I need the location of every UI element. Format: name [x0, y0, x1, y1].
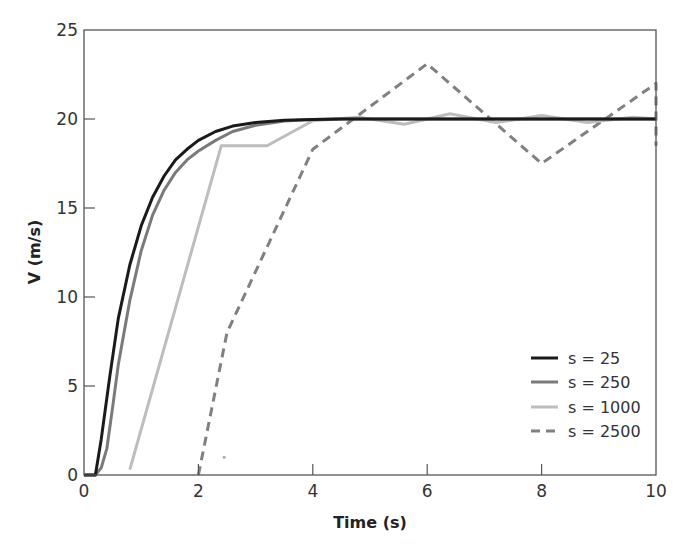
y-tick-label: 15	[56, 198, 78, 218]
y-axis-ticks: 0510152025	[56, 20, 95, 485]
x-tick-label: 0	[79, 481, 90, 501]
legend: s = 25 s = 250 s = 1000 s = 2500	[531, 349, 641, 441]
legend-label-s25: s = 25	[568, 349, 620, 368]
legend-label-s250: s = 250	[568, 373, 630, 392]
stray-mark	[223, 456, 226, 459]
x-axis-title: Time (s)	[333, 513, 407, 532]
legend-label-s2500: s = 2500	[568, 422, 641, 441]
legend-item-s25: s = 25	[531, 349, 620, 368]
line-chart: 0510152025 0246810 Time (s) V (m/s) s = …	[0, 0, 686, 551]
y-tick-label: 0	[67, 465, 78, 485]
legend-item-s1000: s = 1000	[531, 398, 641, 417]
y-tick-label: 10	[56, 287, 78, 307]
y-tick-label: 25	[56, 20, 78, 40]
x-tick-label: 8	[536, 481, 547, 501]
legend-label-s1000: s = 1000	[568, 398, 641, 417]
x-tick-label: 2	[193, 481, 204, 501]
legend-item-s250: s = 250	[531, 373, 630, 392]
y-tick-label: 5	[67, 376, 78, 396]
x-tick-label: 6	[422, 481, 433, 501]
legend-item-s2500: s = 2500	[531, 422, 641, 441]
x-axis-ticks: 0246810	[79, 464, 667, 501]
x-tick-label: 10	[645, 481, 667, 501]
y-tick-label: 20	[56, 109, 78, 129]
y-axis-title: V (m/s)	[25, 220, 44, 285]
x-tick-label: 4	[307, 481, 318, 501]
